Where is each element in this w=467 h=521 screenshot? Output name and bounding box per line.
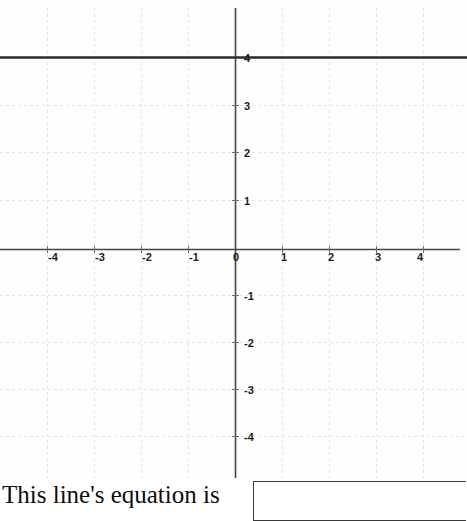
coordinate-plane: -4 -3 -2 -1 0 1 2 3 4 4 3 2 1 -1 -2 -3 -… — [0, 0, 467, 480]
x-tick-label-3: 3 — [375, 251, 381, 263]
y-tick-label--1: -1 — [244, 290, 254, 302]
origin-label-0: 0 — [233, 251, 239, 263]
y-tick-label-3: 3 — [244, 100, 250, 112]
question-prompt: This line's equation is — [2, 480, 220, 509]
x-tick-label-2: 2 — [328, 251, 334, 263]
y-tick-label-1: 1 — [244, 195, 250, 207]
x-tick-label-4: 4 — [417, 251, 423, 263]
y-tick-label--2: -2 — [244, 337, 254, 349]
x-tick-label--2: -2 — [142, 251, 152, 263]
x-tick-label--3: -3 — [95, 251, 105, 263]
equation-answer-input[interactable] — [254, 482, 466, 520]
answer-box[interactable] — [253, 481, 466, 521]
x-tick-label--4: -4 — [48, 251, 58, 263]
x-tick-label--1: -1 — [189, 251, 199, 263]
plotted-line-layer — [0, 0, 467, 480]
y-tick-label-4: 4 — [244, 52, 250, 64]
y-tick-label--3: -3 — [244, 384, 254, 396]
y-tick-label--4: -4 — [244, 431, 254, 443]
y-tick-label-2: 2 — [244, 147, 250, 159]
x-tick-label-1: 1 — [281, 251, 287, 263]
